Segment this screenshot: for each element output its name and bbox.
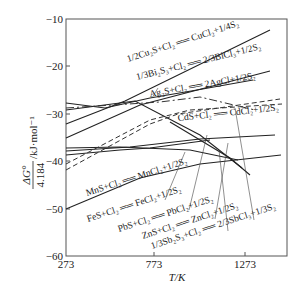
y-tick-label: −10 bbox=[46, 13, 64, 25]
x-tick-label: 773 bbox=[146, 258, 163, 270]
y-tick-label: −50 bbox=[46, 203, 64, 215]
ellingham-chart: −10 −20 −30 −40 −50 −60 273 773 1273 T/K… bbox=[0, 0, 304, 294]
svg-text:/kJ·mol⁻¹: /kJ·mol⁻¹ bbox=[27, 116, 39, 159]
y-axis-label: ΔG° 4.184 /kJ·mol⁻¹ bbox=[20, 116, 46, 189]
annotations: 1/2Cu₂S+Cl₂ ══ CuCl₂+1/4S₂ 1/3Bi₂S₃+Cl₂ … bbox=[85, 18, 280, 251]
x-tick-label: 1273 bbox=[234, 258, 257, 270]
y-tick-label: −20 bbox=[46, 60, 64, 72]
x-axis: 273 773 1273 T/K bbox=[58, 252, 257, 283]
series-lines bbox=[66, 30, 281, 209]
svg-text:ΔG°: ΔG° bbox=[20, 165, 32, 185]
label-cds: CdS+Cl₂ ══ CdCl₂+1/2S₂ bbox=[177, 102, 279, 123]
svg-text:4.184: 4.184 bbox=[34, 162, 46, 187]
y-tick-label: −30 bbox=[46, 108, 64, 120]
x-axis-label: T/K bbox=[169, 271, 186, 283]
x-tick-label: 273 bbox=[58, 258, 75, 270]
line-fes bbox=[66, 135, 275, 151]
y-tick-label: −40 bbox=[46, 155, 64, 167]
